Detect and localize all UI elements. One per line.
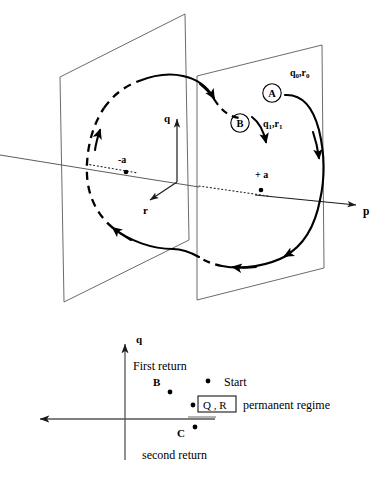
section-marker-a-label: A xyxy=(268,88,276,99)
second-return-label: second return xyxy=(142,448,207,462)
first-return-label: First return xyxy=(133,359,187,373)
return-map-point-b: B xyxy=(153,376,172,394)
initial-coords-label: q0,r0 xyxy=(290,67,310,80)
p-axis-label: p xyxy=(363,205,369,218)
svg-text:q0,r0: q0,r0 xyxy=(290,67,310,80)
trajectory-left-lobe-hidden xyxy=(87,81,139,228)
section-marker-b-label: B xyxy=(236,118,243,129)
first-return-coords-label: q1,r1 xyxy=(263,118,283,131)
section-marker-b: B xyxy=(231,114,249,132)
return-map-point-c: C xyxy=(177,425,197,439)
figure-canvas: q r p -a + a xyxy=(0,0,388,478)
fixed-point-plus-a: + a xyxy=(255,169,268,192)
trajectory-top-arc xyxy=(139,75,214,99)
p-axis xyxy=(0,155,356,205)
fixed-point-minus-a: -a xyxy=(118,154,128,174)
r-axis-label: r xyxy=(143,204,148,216)
return-map-point-start: Start xyxy=(206,375,248,389)
trajectory-hidden-bottom xyxy=(199,257,222,266)
return-map-point-qr: Q , R permanent regime xyxy=(191,396,330,412)
q-axis-label: q xyxy=(164,112,171,124)
r1-subscript: 1 xyxy=(279,123,283,131)
plus-a-label: + a xyxy=(255,169,268,180)
b-point-label: B xyxy=(153,376,161,388)
c-point-label: C xyxy=(177,427,185,439)
minus-a-label: -a xyxy=(118,154,126,165)
start-label: Start xyxy=(224,375,247,389)
return-map-q-label: q xyxy=(136,333,143,345)
lower-return-map-panel: q First return Start B Q , R permanent r… xyxy=(40,333,330,462)
upper-phase-space-panel: q r p -a + a xyxy=(0,14,369,302)
figure-root: q r p -a + a xyxy=(0,0,388,478)
trajectory-bottom-crossing xyxy=(113,228,199,257)
qr-label: Q , R xyxy=(203,399,227,411)
svg-text:q1,r1: q1,r1 xyxy=(263,118,283,131)
section-marker-a: A xyxy=(263,84,281,102)
permanent-regime-label: permanent regime xyxy=(243,398,330,412)
origin-axes-triad xyxy=(150,119,177,200)
r0-subscript: 0 xyxy=(306,72,310,80)
